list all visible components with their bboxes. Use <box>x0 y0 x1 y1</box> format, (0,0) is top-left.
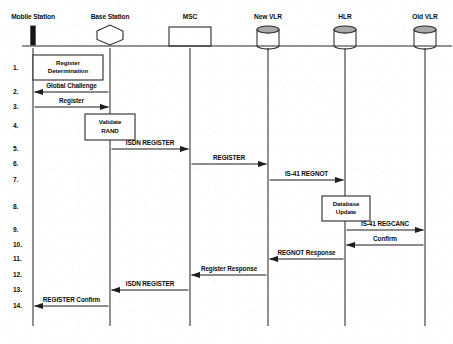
sequence-diagram: Mobile StationBase StationMSCNew VLRHLRO… <box>0 0 453 344</box>
process-box-label-line: Register <box>48 59 88 67</box>
step-number-13: 13. <box>13 286 22 293</box>
process-box-label-line: RAND <box>99 127 122 135</box>
process-box-label-1: RegisterDetermination <box>48 59 88 76</box>
step-number-2: 2. <box>13 88 18 95</box>
message-label-3: Register <box>59 97 84 104</box>
actor-label-hlr: HLR <box>338 13 351 20</box>
step-number-5: 5. <box>13 145 18 152</box>
message-label-7: IS-41 REGNOT <box>285 170 328 177</box>
process-box-label-line: Update <box>333 208 360 216</box>
step-number-6: 6. <box>13 160 18 167</box>
process-box-label-8: DatabaseUpdate <box>333 200 360 217</box>
actor-label-old-vlr: Old VLR <box>412 13 437 20</box>
process-box-label-line: Validate <box>99 118 122 126</box>
step-number-1: 1. <box>13 64 18 71</box>
step-number-12: 12. <box>13 271 22 278</box>
lifelines-layer <box>33 48 425 326</box>
cylinder-top-ellipse <box>414 26 436 33</box>
message-label-10: Confirm <box>373 235 397 242</box>
step-number-3: 3. <box>13 103 18 110</box>
message-label-6: REGISTER <box>213 154 245 161</box>
process-box-label-line: Database <box>333 200 360 208</box>
process-box-label-line: Determination <box>48 67 88 75</box>
step-number-7: 7. <box>13 176 18 183</box>
actor-label-new-vlr: New VLR <box>254 13 282 20</box>
sequence-diagram-canvas <box>0 0 453 344</box>
message-label-5: ISDN REGISTER <box>126 139 174 146</box>
actor-label-base-station: Base Station <box>91 13 130 20</box>
cylinder-top-ellipse <box>257 26 279 33</box>
step-number-11: 11. <box>13 255 22 262</box>
process-box-label-4: ValidateRAND <box>99 118 122 135</box>
step-number-9: 9. <box>13 226 18 233</box>
mobile-handset-icon <box>31 26 35 45</box>
step-number-10: 10. <box>13 241 22 248</box>
message-label-13: ISDN REGISTER <box>126 280 174 287</box>
message-label-12: Register Response <box>201 265 257 272</box>
step-number-14: 14. <box>13 302 22 309</box>
message-label-2: Global Challenge <box>46 82 97 89</box>
actor-label-mobile-station: Mobile Station <box>11 13 55 20</box>
hexagon-icon <box>97 25 123 45</box>
step-number-4: 4. <box>13 122 18 129</box>
process-boxes-layer <box>33 55 370 221</box>
actor-label-msc: MSC <box>183 13 197 20</box>
cylinder-top-ellipse <box>334 26 356 33</box>
message-label-14: REGISTER Confirm <box>43 296 100 303</box>
message-label-11: REGNOT Response <box>277 249 335 256</box>
message-label-9: IS-41 REGCANC <box>361 220 409 227</box>
step-number-8: 8. <box>13 203 18 210</box>
rectangle-icon <box>169 27 211 46</box>
